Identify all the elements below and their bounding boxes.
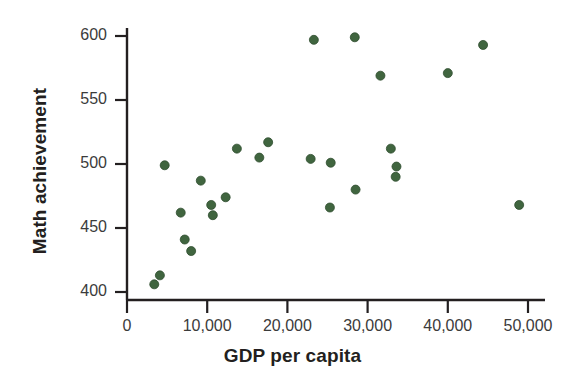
data-point [376, 71, 385, 80]
data-point [325, 203, 334, 212]
data-point [392, 162, 401, 171]
x-axis-ticks [127, 300, 528, 313]
data-point [155, 271, 164, 280]
data-point [160, 161, 169, 170]
data-point [351, 185, 360, 194]
data-point [221, 193, 230, 202]
data-point [207, 200, 216, 209]
x-axis-tick-label: 50,000 [483, 317, 573, 335]
y-axis-tick-label: 500 [55, 154, 107, 172]
data-point [208, 211, 217, 220]
y-axis-title: Math achievement [29, 46, 51, 296]
x-axis-tick-label: 30,000 [323, 317, 413, 335]
data-point [326, 158, 335, 167]
data-point [350, 33, 359, 42]
data-point [443, 69, 452, 78]
y-axis-ticks [115, 36, 127, 292]
data-point [306, 154, 315, 163]
x-axis-tick-label: 10,000 [162, 317, 252, 335]
data-point [255, 153, 264, 162]
data-point [176, 208, 185, 217]
x-axis-tick-label: 0 [82, 317, 172, 335]
x-axis-title: GDP per capita [0, 345, 585, 367]
data-point-group [150, 33, 524, 289]
y-axis-tick-label: 450 [55, 218, 107, 236]
data-point [150, 280, 159, 289]
scatter-plot-figure: 400450500550600010,00020,00030,00040,000… [0, 0, 585, 382]
y-axis-tick-label: 550 [55, 90, 107, 108]
data-point [180, 235, 189, 244]
data-point [196, 176, 205, 185]
data-point [187, 247, 196, 256]
data-point [386, 144, 395, 153]
x-axis-tick-label: 20,000 [242, 317, 332, 335]
data-point [264, 138, 273, 147]
data-point [391, 172, 400, 181]
axis-lines [127, 28, 545, 300]
data-point [309, 35, 318, 44]
x-axis-tick-label: 40,000 [403, 317, 493, 335]
y-axis-tick-label: 600 [55, 26, 107, 44]
data-point [479, 40, 488, 49]
data-point [232, 144, 241, 153]
data-point [515, 200, 524, 209]
y-axis-tick-label: 400 [55, 282, 107, 300]
